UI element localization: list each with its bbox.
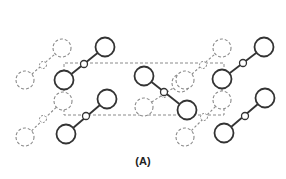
atom-circle — [55, 71, 74, 90]
atom-circle — [256, 89, 275, 108]
atom-circle — [53, 39, 71, 57]
atom-circle — [178, 101, 197, 120]
atom-circle — [16, 71, 34, 89]
atom-circle — [16, 128, 34, 146]
atom-circle — [98, 90, 117, 109]
atom-circle — [57, 125, 76, 144]
center-atom-circle — [161, 89, 168, 96]
atom-circle — [96, 38, 115, 57]
atom-circle — [176, 128, 194, 146]
atom-circle — [213, 91, 231, 109]
center-atom-circle — [81, 61, 88, 68]
figure-label: (A) — [128, 155, 158, 167]
center-atom-circle — [240, 60, 247, 67]
center-atom-circle — [40, 116, 47, 123]
atom-circle — [213, 39, 231, 57]
center-atom-circle — [40, 62, 47, 69]
dashed-molecules — [16, 39, 231, 146]
atom-circle — [213, 70, 232, 89]
atom-circle — [215, 124, 234, 143]
center-atom-circle — [83, 113, 90, 120]
atom-circle — [135, 67, 154, 86]
atom-circle — [54, 92, 72, 110]
crystal-packing-diagram — [0, 0, 286, 179]
center-atom-circle — [242, 113, 249, 120]
solid-molecules — [55, 38, 275, 144]
atom-circle — [255, 38, 274, 57]
center-atom-circle — [201, 114, 208, 121]
atom-circle — [135, 98, 153, 116]
atom-circle — [176, 71, 194, 89]
center-atom-circle — [200, 62, 207, 69]
